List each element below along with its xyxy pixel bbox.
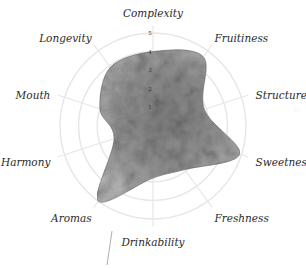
tick-label-3: 3 [148, 67, 152, 73]
data-point-freshness [184, 169, 186, 171]
data-point-drinkability [152, 177, 154, 179]
axis-label-harmony: Harmony [0, 156, 51, 168]
axis-label-structure: Structure [256, 89, 306, 101]
data-point-fruitiness [202, 56, 204, 58]
axis-label-longevity: Longevity [38, 32, 93, 44]
axis-label-complexity: Complexity [123, 7, 184, 19]
data-point-mouth [99, 108, 101, 110]
data-point-longevity [110, 67, 112, 69]
axis-label-freshness: Freshness [213, 212, 269, 224]
tick-label-4: 4 [148, 49, 152, 55]
axis-label-aromas: Aromas [50, 212, 92, 224]
data-point-sweetness [239, 153, 241, 155]
axis-label-mouth: Mouth [15, 89, 51, 101]
data-point-aromas [98, 200, 100, 202]
tick-label-2: 2 [148, 86, 152, 92]
axis-label-drinkability: Drinkability [120, 236, 185, 248]
tick-label-1: 1 [148, 104, 152, 110]
data-point-complexity [152, 51, 154, 53]
tick-label-5: 5 [148, 30, 152, 36]
data-point-harmony [113, 138, 115, 140]
radar-chart: 12345 ComplexityFruitinessStructureSweet… [0, 0, 306, 268]
data-point-structure [203, 109, 205, 111]
axis-label-fruitiness: Fruitiness [213, 32, 268, 44]
axis-label-sweetness: Sweetness [256, 156, 306, 168]
decorative-stroke [107, 231, 112, 265]
